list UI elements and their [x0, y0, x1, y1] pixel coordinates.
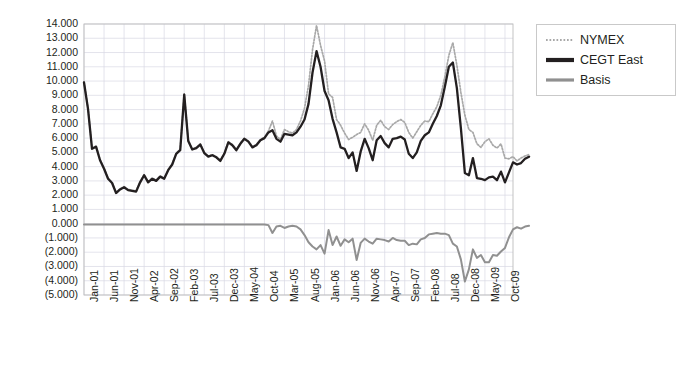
legend-label-basis: Basis [580, 73, 611, 87]
legend-label-cegt-east: CEGT East [580, 53, 643, 67]
legend-item-nymex: NYMEX [546, 31, 624, 49]
x-axis-tick-label: Jan-01 [88, 270, 100, 302]
x-axis-tick-label: May-09 [489, 267, 501, 302]
legend-label-nymex: NYMEX [580, 33, 624, 47]
x-axis-tick-label: Jun-06 [349, 270, 361, 302]
y-axis-tick-label: (1.000) [45, 231, 78, 243]
gridlines [84, 24, 513, 295]
y-axis-tick-label: 3.000 [52, 174, 78, 186]
y-axis-tick-label: 12.000 [46, 46, 78, 58]
y-axis-tick-label: 0.000 [52, 217, 78, 229]
y-axis-tick-label: (4.000) [45, 274, 78, 286]
plot-frame [84, 24, 513, 295]
y-axis-tick-label: 14.000 [46, 17, 78, 29]
y-axis-tick-label: 10.000 [46, 74, 78, 86]
x-axis-tick-label: Jul-03 [208, 273, 220, 302]
y-axis-tick-label: (2.000) [45, 245, 78, 257]
x-axis-tick-label: Aug-05 [309, 268, 321, 302]
x-axis-tick-label: Jan-06 [329, 270, 341, 302]
y-axis-tick-label: 2.000 [52, 188, 78, 200]
y-axis-tick-label: 4.000 [52, 160, 78, 172]
x-axis-tick-label: Mar-05 [288, 269, 300, 302]
x-axis-tick-label: Nov-06 [369, 268, 381, 302]
legend-item-cegt-east: CEGT East [546, 51, 643, 69]
x-axis-tick-label: Feb-08 [429, 269, 441, 302]
y-axis-tick-label: 1.000 [52, 202, 78, 214]
legend-item-basis: Basis [546, 71, 611, 89]
x-axis-tick-label: Apr-07 [389, 270, 401, 302]
y-axis-tick-label: 6.000 [52, 131, 78, 143]
x-axis-tick-label: May-04 [248, 267, 260, 302]
x-axis-tick-label: Jul-08 [449, 273, 461, 302]
y-axis-tick-label: 13.000 [46, 31, 78, 43]
x-axis-tick-label: Oct-04 [268, 270, 280, 302]
y-axis-tick-label: (3.000) [45, 259, 78, 271]
y-axis-tick-label: (5.000) [45, 288, 78, 300]
x-axis-tick-label: Jun-01 [108, 270, 120, 302]
x-axis-tick-label: Nov-01 [128, 268, 140, 302]
x-axis-tick-label: Feb-03 [188, 269, 200, 302]
x-axis-tick-label: Dec-03 [228, 268, 240, 302]
chart-legend: NYMEX CEGT East Basis [536, 24, 676, 96]
y-axis-tick-label: 8.000 [52, 103, 78, 115]
y-axis-tick-label: 11.000 [47, 60, 78, 72]
legend-swatch-cegt-east [546, 54, 574, 66]
legend-swatch-nymex [546, 34, 574, 46]
y-axis-tick-label: 5.000 [52, 145, 78, 157]
x-axis-tick-label: Oct-09 [509, 270, 521, 302]
series-line-cegt-east [84, 51, 529, 193]
x-axis-tick-label: Sep-07 [409, 268, 421, 302]
x-axis-tick-label: Sep-02 [168, 268, 180, 302]
y-axis-tick-label: 7.000 [52, 117, 78, 129]
x-axis-tick-label: Dec-08 [469, 268, 481, 302]
legend-swatch-basis [546, 74, 574, 86]
y-axis-tick-label: 9.000 [52, 88, 78, 100]
x-axis-tick-label: Apr-02 [148, 270, 160, 302]
